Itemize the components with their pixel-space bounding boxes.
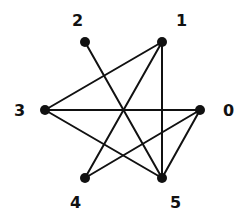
edges-group bbox=[45, 42, 200, 178]
node-label-0: 0 bbox=[223, 101, 234, 120]
node-label-3: 3 bbox=[14, 101, 25, 120]
node-label-2: 2 bbox=[72, 11, 83, 30]
node-3 bbox=[40, 105, 50, 115]
node-2 bbox=[80, 37, 90, 47]
node-1 bbox=[157, 37, 167, 47]
node-label-1: 1 bbox=[176, 11, 187, 30]
node-5 bbox=[157, 173, 167, 183]
graph-diagram: 012345 bbox=[0, 0, 244, 220]
node-4 bbox=[80, 173, 90, 183]
node-label-4: 4 bbox=[70, 193, 81, 212]
node-0 bbox=[195, 105, 205, 115]
node-label-5: 5 bbox=[170, 193, 181, 212]
